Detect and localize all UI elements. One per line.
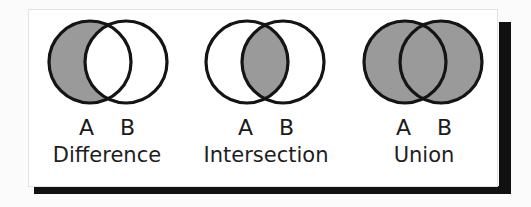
figure-root: A B Difference — [0, 0, 531, 207]
label-b-union: B — [437, 115, 452, 141]
venn-diagram-difference — [33, 10, 183, 114]
ab-row-intersection: A B — [204, 115, 329, 141]
label-b-difference: B — [120, 115, 135, 141]
venn-panel-difference: A B Difference — [33, 10, 183, 188]
venn-panels-row: A B Difference — [29, 10, 499, 188]
venn-diagram-union — [347, 10, 499, 114]
venn-svg-union — [361, 14, 485, 110]
venn-svg-intersection — [203, 14, 327, 110]
figure-card: A B Difference — [28, 9, 498, 187]
venn-svg-difference — [46, 14, 170, 110]
label-b-intersection: B — [279, 115, 294, 141]
labels-group-union: A B Union — [394, 114, 455, 169]
caption-union: Union — [394, 141, 455, 169]
card-shadow-right — [499, 22, 511, 194]
label-a-difference: A — [79, 115, 94, 141]
venn-panel-union: A B Union — [347, 10, 499, 188]
labels-group-difference: A B Difference — [53, 114, 161, 169]
venn-panel-intersection: A B Intersection — [184, 10, 346, 188]
labels-group-intersection: A B Intersection — [204, 114, 329, 169]
caption-difference: Difference — [53, 141, 161, 169]
ab-row-union: A B — [394, 115, 455, 141]
label-a-union: A — [396, 115, 411, 141]
caption-intersection: Intersection — [204, 141, 329, 169]
venn-diagram-intersection — [184, 10, 346, 114]
label-a-intersection: A — [238, 115, 253, 141]
ab-row-difference: A B — [53, 115, 161, 141]
